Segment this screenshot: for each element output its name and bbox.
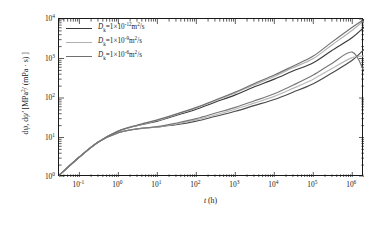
y-tick-10e3: 103 [45, 53, 55, 62]
legend-item-1: Dk=1×10-9m2/s [66, 35, 145, 49]
y-axis-title: dψ, dψ′ [MPa2/ (mPa · s) ] [20, 8, 31, 178]
legend-label-2: Dk=1×10-6m2/s [98, 50, 142, 61]
y-tick-10e0: 100 [45, 172, 55, 181]
x-tick-10e4: 104 [268, 180, 278, 189]
legend-item-2: Dk=1×10-6m2/s [66, 49, 145, 63]
x-tick-10e0: 100 [112, 180, 122, 189]
y-tick-10e2: 102 [45, 93, 55, 102]
x-tick-10e2: 102 [190, 180, 200, 189]
legend-label-0: Dk=1×10-12m2/s [98, 22, 145, 33]
y-axis-tick-labels: 104 103 102 101 100 [30, 18, 55, 176]
x-tick-10e6: 106 [346, 180, 356, 189]
x-tick-10e3: 103 [229, 180, 239, 189]
series-line-1 [59, 49, 364, 175]
y-tick-10e4: 104 [45, 14, 55, 23]
series-line-5 [59, 52, 364, 175]
x-axis-title: t (h) [58, 196, 363, 205]
x-axis-tick-labels: 10-1100101102103104105106 [58, 180, 363, 194]
legend-swatch-1 [66, 42, 92, 43]
x-tick-10e5: 105 [307, 180, 317, 189]
legend-item-0: Dk=1×10-12m2/s [66, 21, 145, 35]
x-tick-10e-1: 10-1 [72, 180, 84, 189]
legend: Dk=1×10-12m2/s Dk=1×10-9m2/s Dk=1×10-6m2… [66, 21, 145, 63]
x-tick-10e1: 101 [151, 180, 161, 189]
legend-label-1: Dk=1×10-9m2/s [98, 36, 142, 47]
figure-container: 104 103 102 101 100 Dk=1×10-12m2/s Dk=1×… [0, 0, 389, 230]
legend-swatch-0 [66, 28, 92, 29]
series-line-3 [59, 56, 364, 175]
legend-swatch-2 [66, 56, 92, 57]
y-tick-10e1: 101 [45, 132, 55, 141]
